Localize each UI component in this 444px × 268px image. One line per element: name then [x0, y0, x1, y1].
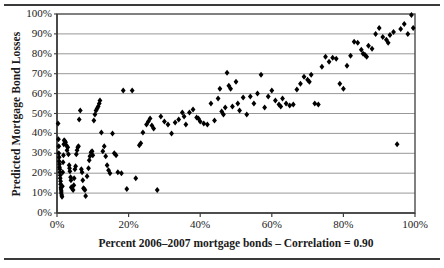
y-tick-label-100: 100% — [6, 7, 52, 19]
y-tick-label-40: 40% — [6, 126, 52, 138]
x-tick-label-0: 0% — [27, 218, 87, 230]
y-tick-label-10: 10% — [6, 186, 52, 198]
x-axis-title: Percent 2006–2007 mortgage bonds – Corre… — [57, 237, 415, 249]
scatter-chart-figure: Predicted Mortgage Bond Losses Percent 2… — [0, 0, 444, 268]
y-tick-label-70: 70% — [6, 67, 52, 79]
x-tick-label-60: 60% — [242, 218, 302, 230]
y-tick-label-80: 80% — [6, 47, 52, 59]
y-tick-label-60: 60% — [6, 87, 52, 99]
x-tick-label-40: 40% — [170, 218, 230, 230]
x-tick-label-100: 100% — [385, 218, 444, 230]
y-tick-label-20: 20% — [6, 166, 52, 178]
plot-wrapper: Predicted Mortgage Bond Losses Percent 2… — [0, 0, 444, 268]
y-tick-label-90: 90% — [6, 27, 52, 39]
y-tick-label-0: 0% — [6, 206, 52, 218]
y-tick-label-30: 30% — [6, 146, 52, 158]
x-tick-label-80: 80% — [313, 218, 373, 230]
y-tick-label-50: 50% — [6, 107, 52, 119]
x-tick-label-20: 20% — [99, 218, 159, 230]
